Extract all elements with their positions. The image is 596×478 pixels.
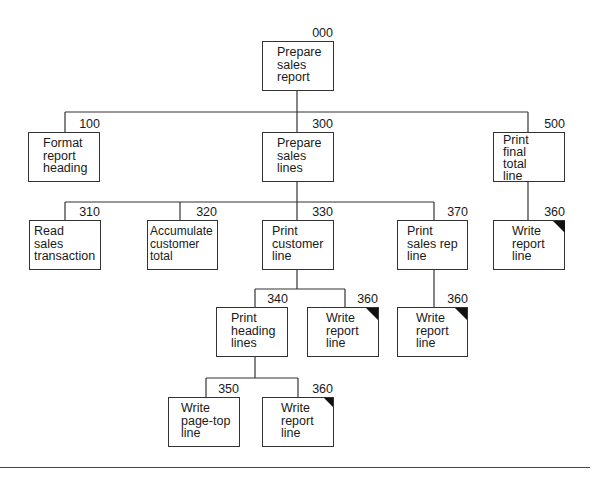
module-number-100: 100 (40, 118, 100, 131)
common-module-marker (324, 398, 333, 407)
module-prepare-sales-lines: Prepare sales lines (262, 132, 334, 182)
module-number-330: 330 (273, 206, 333, 219)
module-accumulate-customer-total: Accumulate customer total (147, 220, 218, 270)
common-module-marker (366, 308, 378, 320)
module-number-000: 000 (273, 27, 333, 40)
module-prepare-sales-report: Prepare sales report (262, 41, 334, 91)
module-print-heading-lines: Print heading lines (216, 307, 288, 357)
module-number-370: 370 (408, 206, 468, 219)
module-format-report-heading: Format report heading (28, 132, 100, 182)
module-write-page-top-line: Write page-top line (168, 397, 240, 447)
module-number-300: 300 (273, 118, 333, 131)
module-read-sales-transaction: Read sales transaction (29, 220, 101, 270)
module-print-sales-rep-line: Print sales rep line (397, 220, 468, 270)
module-number-350: 350 (179, 383, 239, 396)
module-number-340: 340 (228, 293, 288, 306)
module-print-customer-line: Print customer line (262, 220, 334, 270)
module-number-360-a: 360 (505, 206, 565, 219)
common-module-marker (553, 221, 565, 233)
module-number-360-d: 360 (273, 383, 333, 396)
module-number-360-c: 360 (408, 293, 468, 306)
module-number-310: 310 (40, 206, 100, 219)
module-number-500: 500 (505, 118, 565, 131)
module-print-final-total-line: Print final total line (493, 132, 565, 182)
module-number-320: 320 (157, 206, 217, 219)
bottom-rule (0, 467, 590, 468)
common-module-marker (455, 308, 467, 320)
module-number-360-b: 360 (318, 293, 378, 306)
